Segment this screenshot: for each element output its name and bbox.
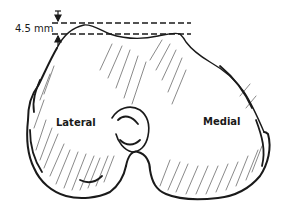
measurement-arrows	[55, 11, 61, 46]
down-arrow-icon	[55, 15, 61, 21]
reference-lines	[52, 23, 191, 34]
femur-outline	[27, 25, 269, 199]
measurement-label: 4.5 mm	[15, 23, 54, 34]
medial-condyle-label: Medial	[203, 116, 241, 127]
up-arrow-icon	[55, 36, 61, 42]
lateral-condyle-label: Lateral	[56, 117, 96, 128]
